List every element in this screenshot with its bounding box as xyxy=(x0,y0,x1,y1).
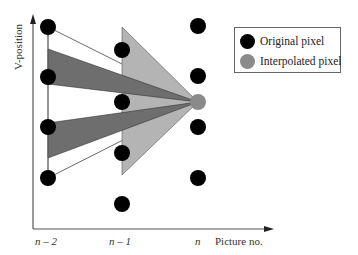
original-pixel xyxy=(114,145,130,161)
original-pixel xyxy=(40,170,56,186)
original-pixel xyxy=(114,196,130,212)
original-pixel xyxy=(40,69,56,85)
original-pixel xyxy=(190,119,206,135)
original-pixel xyxy=(40,19,56,35)
x-tick-n-1: n – 1 xyxy=(109,235,131,247)
interpolated-pixel-icon xyxy=(240,54,255,69)
original-pixel-icon xyxy=(240,34,255,49)
x-axis-label: Picture no. xyxy=(215,235,263,247)
light-wedge xyxy=(122,27,198,175)
legend-item-original: Original pixel xyxy=(240,33,324,49)
x-axis-arrow-icon xyxy=(264,226,274,232)
original-pixel xyxy=(190,170,206,186)
x-tick-n-2: n – 2 xyxy=(35,235,57,247)
original-pixel xyxy=(190,68,206,84)
original-pixel xyxy=(114,94,130,110)
y-axis-arrow-icon xyxy=(30,14,36,24)
original-pixel xyxy=(190,18,206,34)
original-pixel xyxy=(114,42,130,58)
legend-label-interpolated: Interpolated pixel xyxy=(260,55,341,67)
legend: Original pixel Interpolated pixel xyxy=(234,27,341,73)
legend-item-interpolated: Interpolated pixel xyxy=(240,53,341,69)
original-pixel xyxy=(40,119,56,135)
x-tick-n: n xyxy=(195,235,201,247)
legend-label-original: Original pixel xyxy=(260,35,324,47)
interpolated-pixel xyxy=(190,94,206,110)
y-axis-label: V-position xyxy=(12,24,24,70)
